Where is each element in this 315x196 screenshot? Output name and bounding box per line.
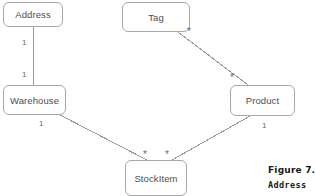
multiplicity-wh-end-top: 1 xyxy=(22,71,26,79)
multiplicity-wh-end-bottom: 1 xyxy=(39,120,43,128)
class-node-warehouse[interactable]: Warehouse xyxy=(3,85,66,115)
class-node-stockitem[interactable]: StockItem xyxy=(125,160,187,196)
multiplicity-addr-end: 1 xyxy=(22,39,26,47)
multiplicity-si-end-right: * xyxy=(165,151,169,159)
class-node-tag[interactable]: Tag xyxy=(122,2,190,32)
edge-tag-product xyxy=(178,32,248,85)
class-node-address[interactable]: Address xyxy=(3,2,63,27)
edge-product-stockitem xyxy=(172,116,250,160)
diagram-canvas: AddressTagWarehouseProductStockItem 11**… xyxy=(0,0,315,196)
class-node-product[interactable]: Product xyxy=(230,85,295,116)
multiplicity-prod-end-top: * xyxy=(230,74,234,82)
figure-caption-line2: Address xyxy=(268,180,307,190)
multiplicity-prod-end-bottom: 1 xyxy=(262,122,266,130)
class-node-label: Tag xyxy=(148,12,164,23)
class-node-label: StockItem xyxy=(134,173,177,184)
class-node-label: Address xyxy=(15,9,51,20)
figure-caption-line1: Figure 7.1 xyxy=(268,165,315,175)
edge-warehouse-stockitem xyxy=(60,115,147,160)
class-node-label: Warehouse xyxy=(10,95,59,106)
class-node-label: Product xyxy=(246,95,279,106)
multiplicity-si-end-left: * xyxy=(143,151,147,159)
multiplicity-tag-end: * xyxy=(187,28,191,36)
